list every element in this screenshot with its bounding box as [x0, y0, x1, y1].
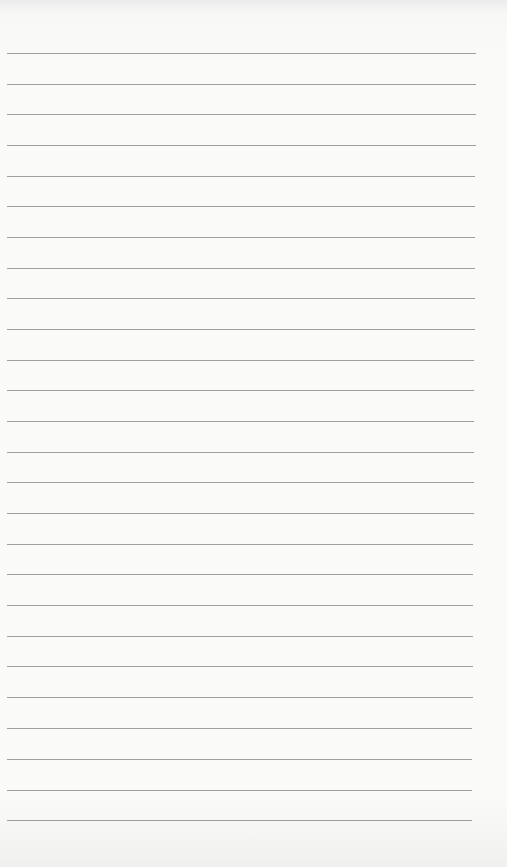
ruled-line — [7, 820, 472, 821]
ruled-line — [7, 360, 474, 361]
ruled-line — [7, 53, 476, 54]
ruled-line — [7, 605, 473, 606]
ruled-line — [7, 237, 475, 238]
ruled-line — [7, 206, 475, 207]
ruled-line — [7, 544, 473, 545]
ruled-line — [7, 145, 476, 146]
ruled-line — [7, 759, 472, 760]
ruled-line — [7, 666, 473, 667]
ruled-line — [7, 84, 476, 85]
ruled-line — [7, 574, 473, 575]
ruled-line — [7, 636, 473, 637]
ruled-line — [7, 421, 474, 422]
ruled-line — [7, 790, 472, 791]
ruled-line — [7, 114, 476, 115]
ruled-line — [7, 329, 475, 330]
ruled-line — [7, 452, 474, 453]
lined-paper-sheet — [0, 0, 507, 867]
ruled-line — [7, 176, 475, 177]
ruled-line — [7, 482, 474, 483]
ruled-line — [7, 513, 474, 514]
ruled-line — [7, 390, 474, 391]
ruled-line — [7, 298, 475, 299]
ruled-line — [7, 697, 473, 698]
ruled-line — [7, 268, 475, 269]
ruled-line — [7, 728, 472, 729]
